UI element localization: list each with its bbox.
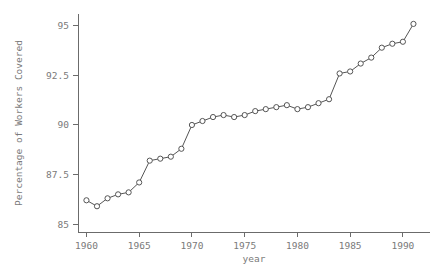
data-point [411, 21, 416, 26]
x-tick-group: 1960196519701975198019851990 [75, 232, 415, 251]
series-markers [84, 21, 416, 209]
x-tick-label: 1975 [233, 240, 256, 251]
data-point [358, 61, 363, 66]
x-axis: 1960196519701975198019851990 [75, 232, 430, 251]
data-point [316, 101, 321, 106]
chart-page: 8587.59092.595 1960196519701975198019851… [0, 0, 434, 276]
data-point [284, 103, 289, 108]
data-point [179, 146, 184, 151]
y-axis: 8587.59092.595 [46, 14, 78, 232]
data-point [232, 114, 237, 119]
data-point [326, 97, 331, 102]
x-tick-label: 1965 [128, 240, 151, 251]
y-tick-label: 92.5 [46, 70, 69, 81]
y-axis-title: Percentage of Workers Covered [13, 40, 24, 206]
data-point [210, 114, 215, 119]
data-point [274, 105, 279, 110]
data-point [200, 118, 205, 123]
x-axis-title: year [243, 253, 266, 264]
data-point [105, 196, 110, 201]
x-tick-label: 1960 [75, 240, 98, 251]
data-point [369, 55, 374, 60]
x-tick-label: 1970 [180, 240, 203, 251]
x-tick-label: 1985 [339, 240, 362, 251]
data-point [84, 198, 89, 203]
y-tick-group: 8587.59092.595 [46, 20, 78, 229]
data-point [253, 109, 258, 114]
data-point [94, 204, 99, 209]
series-line [86, 24, 413, 206]
x-tick-label: 1980 [286, 240, 309, 251]
data-point [137, 180, 142, 185]
data-point [147, 158, 152, 163]
data-point [390, 41, 395, 46]
data-point [189, 122, 194, 127]
data-point [295, 107, 300, 112]
data-point [305, 105, 310, 110]
data-point [263, 107, 268, 112]
y-tick-label: 95 [58, 20, 69, 31]
data-point [348, 69, 353, 74]
y-tick-label: 85 [58, 219, 69, 230]
data-point [242, 112, 247, 117]
data-point [168, 154, 173, 159]
data-point [126, 190, 131, 195]
data-point [115, 192, 120, 197]
x-tick-label: 1990 [391, 240, 414, 251]
data-point [158, 156, 163, 161]
line-chart: 8587.59092.595 1960196519701975198019851… [0, 0, 434, 276]
data-point [379, 45, 384, 50]
data-point [221, 112, 226, 117]
y-tick-label: 90 [58, 119, 70, 130]
data-point [400, 39, 405, 44]
y-tick-label: 87.5 [46, 169, 69, 180]
data-point [337, 71, 342, 76]
